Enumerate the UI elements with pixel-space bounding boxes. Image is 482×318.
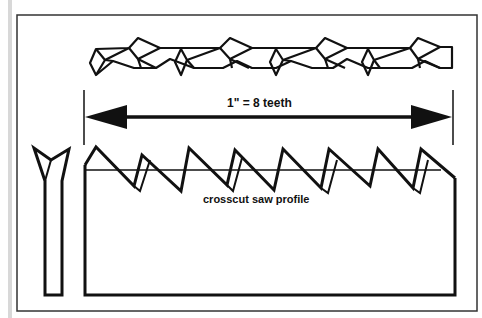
- arrowhead-left-icon: [85, 105, 127, 129]
- side-profile: [85, 147, 455, 295]
- end-view-tooth: [34, 148, 69, 295]
- measure-label: 1" = 8 teeth: [227, 96, 292, 110]
- top-view-teeth: [90, 38, 452, 75]
- profile-label: crosscut saw profile: [203, 193, 309, 205]
- arrowhead-right-icon: [411, 105, 452, 129]
- saw-diagram: [0, 0, 482, 318]
